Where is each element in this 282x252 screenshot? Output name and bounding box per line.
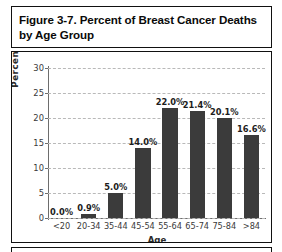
- gridline: [48, 68, 265, 69]
- x-tick-label: 55-64: [158, 221, 182, 231]
- x-axis-title: Age: [48, 235, 266, 243]
- y-tick-mark: [45, 93, 48, 94]
- x-tick-label: 75-84: [212, 221, 236, 231]
- bar: 16.6%>84: [244, 135, 259, 218]
- bar-value-label: 20.1%: [210, 107, 239, 117]
- bar: 14.0%45-54: [135, 148, 150, 218]
- gridline: [48, 118, 265, 119]
- bar-value-label: 21.4%: [183, 100, 212, 110]
- bar: 0.9%20-34: [81, 214, 96, 219]
- bar-value-label: 14.0%: [129, 137, 158, 147]
- y-tick-mark: [45, 118, 48, 119]
- y-tick-mark: [45, 68, 48, 69]
- y-tick-mark: [45, 143, 48, 144]
- bar: 21.4%65-74: [190, 111, 205, 218]
- figure-container: Figure 3-7. Percent of Breast Cancer Dea…: [11, 6, 272, 243]
- y-axis-title: Percent of Deaths: [11, 51, 20, 94]
- figure-title-line-1: Figure 3-7. Percent of Breast Cancer Dea…: [19, 13, 257, 26]
- gridline: [48, 218, 265, 219]
- bar: 20.1%75-84: [217, 118, 232, 219]
- bar: 22.0%55-64: [162, 108, 177, 218]
- x-tick-label: 45-54: [131, 221, 155, 231]
- x-tick-label: 65-74: [185, 221, 209, 231]
- x-tick-label: <20: [53, 221, 70, 231]
- gridline: [48, 168, 265, 169]
- x-tick-label: >84: [243, 221, 260, 231]
- x-tick-label: 20-34: [77, 221, 101, 231]
- bar-value-label: 0.0%: [50, 207, 73, 217]
- gridline: [48, 193, 265, 194]
- plot-area: 051015202530 0.0%<200.9%20-345.0%35-4414…: [48, 68, 265, 218]
- gridline: [48, 93, 265, 94]
- figure-title-box: Figure 3-7. Percent of Breast Cancer Dea…: [11, 6, 272, 48]
- bar-value-label: 22.0%: [156, 97, 185, 107]
- y-tick-mark: [45, 193, 48, 194]
- figure-title-line-2: by Age Group: [19, 28, 94, 41]
- y-tick-mark: [45, 218, 48, 219]
- figure-title: Figure 3-7. Percent of Breast Cancer Dea…: [19, 13, 265, 42]
- bar-value-label: 0.9%: [77, 203, 100, 213]
- bar-value-label: 16.6%: [237, 124, 266, 134]
- bar-value-label: 5.0%: [104, 182, 127, 192]
- chart-box: Percent of Deaths 051015202530 0.0%<200.…: [11, 51, 272, 243]
- y-tick-mark: [45, 168, 48, 169]
- next-figure-box: [11, 247, 272, 252]
- x-tick-label: 35-44: [104, 221, 128, 231]
- bar: 5.0%35-44: [108, 193, 123, 218]
